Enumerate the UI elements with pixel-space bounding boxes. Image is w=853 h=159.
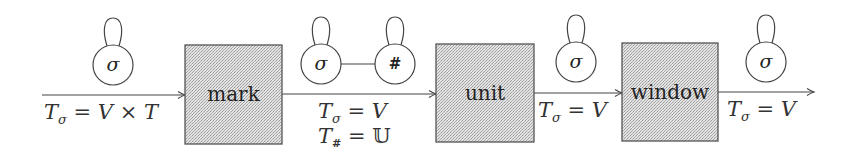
type-rhs: V bbox=[592, 98, 609, 122]
stage-mark: mark bbox=[185, 45, 282, 144]
self-loop bbox=[757, 15, 774, 43]
type-rhs: V bbox=[372, 99, 389, 123]
node-sigma-input: σ bbox=[93, 18, 133, 85]
type-subscript: # bbox=[332, 137, 341, 150]
node-sigma-unit-window: σ bbox=[556, 15, 596, 82]
sigma-symbol: σ bbox=[315, 52, 329, 74]
node-sigma-mark-unit: σ bbox=[301, 17, 341, 84]
self-loop bbox=[567, 15, 584, 43]
stage-unit: unit bbox=[436, 44, 534, 142]
sigma-symbol: σ bbox=[570, 50, 584, 72]
equals-sign: = bbox=[341, 124, 372, 148]
type-rhs: V × T bbox=[98, 100, 160, 124]
node-sigma-output: σ bbox=[746, 15, 786, 82]
sigma-symbol: σ bbox=[107, 53, 121, 75]
type-label-output: Tσ = V bbox=[727, 97, 798, 124]
self-loop bbox=[104, 18, 121, 46]
type-label-input: Tσ = V × T bbox=[44, 100, 160, 127]
hash-symbol: # bbox=[389, 55, 402, 73]
self-loop bbox=[386, 17, 403, 45]
stage-label: mark bbox=[207, 82, 260, 106]
type-label-unit-window: Tσ = V bbox=[538, 98, 609, 125]
equals-sign: = bbox=[561, 98, 592, 122]
stage-window: window bbox=[622, 43, 718, 141]
equals-sign: = bbox=[67, 100, 98, 124]
type-rhs: 𝕌 bbox=[372, 124, 390, 148]
type-label-mark-unit-hash: T# = 𝕌 bbox=[318, 124, 391, 150]
type-label-mark-unit-sigma: Tσ = V bbox=[318, 99, 389, 126]
sigma-symbol: σ bbox=[760, 50, 774, 72]
equals-sign: = bbox=[750, 97, 781, 121]
stage-label: unit bbox=[465, 81, 505, 105]
self-loop bbox=[312, 17, 329, 45]
node-hash-mark-unit: # bbox=[375, 17, 415, 84]
equals-sign: = bbox=[341, 99, 372, 123]
pipeline-diagram: mark unit window σ σ # σ σ Tσ = bbox=[0, 0, 853, 159]
type-rhs: V bbox=[781, 97, 798, 121]
stage-label: window bbox=[631, 80, 709, 104]
